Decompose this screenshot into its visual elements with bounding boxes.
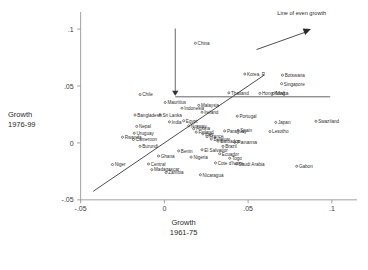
data-point-marker-0 bbox=[194, 42, 196, 44]
data-point-marker-38 bbox=[178, 150, 180, 152]
point-label-burundi: Burundi bbox=[142, 144, 158, 149]
point-label-indonesia: Indonesia bbox=[184, 106, 204, 111]
data-point-marker-35 bbox=[219, 153, 221, 155]
point-label-paraguay: Paraguay bbox=[227, 129, 247, 134]
point-label-singapore: Singapore bbox=[284, 82, 305, 87]
data-point-marker-39 bbox=[229, 157, 231, 159]
data-point-marker-23 bbox=[168, 121, 170, 123]
point-label-portugal: Portugal bbox=[239, 114, 256, 119]
data-point-marker-10 bbox=[201, 111, 203, 113]
data-point-marker-9 bbox=[181, 107, 183, 109]
data-point-marker-36 bbox=[201, 149, 203, 151]
point-label-thailand: Thailand bbox=[231, 91, 249, 96]
point-label-panama: Panama bbox=[237, 139, 257, 145]
even-growth-arrow bbox=[257, 31, 308, 49]
y-axis-title-line2: 1976-99 bbox=[8, 120, 36, 129]
point-label-central: Central bbox=[151, 162, 166, 167]
axes: -.050.05.1-.050.05.1Growth1961-75Growth1… bbox=[8, 12, 357, 237]
point-label-gabon: Gabon bbox=[299, 164, 313, 169]
point-label-rwanda: Rwanda bbox=[125, 135, 142, 140]
point-label-niger: Niger bbox=[115, 162, 126, 167]
line-of-even-growth: Line of even growth bbox=[277, 10, 326, 16]
data-point-marker-24 bbox=[183, 120, 185, 122]
point-label-malta: Malta bbox=[275, 90, 288, 96]
data-point-marker-7 bbox=[164, 101, 166, 103]
point-label-botswana: Botswana bbox=[285, 73, 306, 78]
data-point-marker-48 bbox=[157, 155, 159, 157]
point-label-benin: Benin bbox=[181, 149, 193, 154]
point-label-nicaragua: Nicaragua bbox=[203, 173, 224, 178]
data-point-marker-37 bbox=[190, 156, 192, 158]
point-label-nepal: Nepal bbox=[139, 124, 151, 129]
point-label-japan: Japan bbox=[278, 120, 291, 125]
point-label-india: India bbox=[172, 120, 182, 125]
point-label-nigeria: Nigeria bbox=[193, 155, 208, 160]
x-axis-title-line2: 1961-75 bbox=[170, 228, 198, 237]
point-label-sri-lanka: Sri Lanka bbox=[162, 113, 182, 118]
point-label-ghana: Ghana bbox=[161, 154, 175, 159]
point-label-madagascar: Madagascar bbox=[154, 167, 180, 172]
point-label-korea-r: Korea, R bbox=[247, 72, 266, 77]
data-point-marker-43 bbox=[315, 120, 317, 122]
data-point-marker-42 bbox=[296, 165, 298, 167]
data-point-marker-3 bbox=[281, 83, 283, 85]
x-tick-label-0: -.05 bbox=[75, 205, 87, 212]
y-tick-label-3: .1 bbox=[68, 26, 74, 33]
x-tick-label-3: .1 bbox=[329, 205, 335, 212]
data-point-marker-49 bbox=[111, 163, 113, 165]
y-tick-label-1: 0 bbox=[70, 140, 74, 147]
data-point-marker-4 bbox=[228, 92, 230, 94]
plot-area: -.050.05.1-.050.05.1Growth1961-75Growth1… bbox=[0, 0, 368, 270]
data-point-marker-25 bbox=[188, 125, 190, 127]
scatter-chart: -.050.05.1-.050.05.1Growth1961-75Growth1… bbox=[0, 0, 368, 270]
data-point-marker-40 bbox=[214, 162, 216, 164]
data-point-marker-13 bbox=[134, 114, 136, 116]
y-axis-title-line1: Growth bbox=[8, 110, 32, 119]
even-growth-arrow-head bbox=[303, 29, 311, 35]
point-label-ireland: Ireland bbox=[204, 110, 218, 115]
data-points: ChinaKorea, RBotswanaSingaporeThailandHo… bbox=[111, 41, 339, 177]
x-axis-title-line1: Growth bbox=[172, 218, 196, 227]
mauritius-pointer-head bbox=[172, 91, 178, 96]
data-point-marker-47 bbox=[147, 163, 149, 165]
point-label-lesotho: Lesotho bbox=[272, 129, 289, 134]
data-point-marker-22 bbox=[139, 145, 141, 147]
point-label-mauritius: Mauritius bbox=[167, 100, 186, 105]
annotations: Line of even growth bbox=[257, 10, 327, 49]
data-point-marker-17 bbox=[269, 130, 271, 132]
point-label-chile: Chile bbox=[142, 92, 153, 97]
x-tick-label-2: .05 bbox=[243, 205, 253, 212]
data-point-marker-2 bbox=[281, 74, 283, 76]
data-point-marker-46 bbox=[151, 169, 153, 171]
data-point-marker-32 bbox=[224, 130, 226, 132]
data-point-marker-1 bbox=[244, 73, 246, 75]
point-label-bangladesh: Bangladesh bbox=[137, 113, 162, 118]
y-tick-label-2: .05 bbox=[64, 83, 74, 90]
data-point-marker-21 bbox=[121, 136, 123, 138]
x-tick-label-1: 0 bbox=[162, 205, 166, 212]
data-point-marker-18 bbox=[136, 125, 138, 127]
data-point-marker-5 bbox=[259, 92, 261, 94]
point-label-saudi-arabia: Saudi Arabia bbox=[239, 162, 265, 167]
data-point-marker-14 bbox=[236, 115, 238, 117]
data-point-marker-11 bbox=[139, 93, 141, 95]
data-point-marker-15 bbox=[275, 121, 277, 123]
y-tick-label-0: -.05 bbox=[62, 196, 74, 203]
point-label-swaziland: Swaziland bbox=[318, 119, 339, 124]
point-label-china: China bbox=[198, 41, 210, 46]
data-point-marker-44 bbox=[199, 174, 201, 176]
data-point-marker-19 bbox=[133, 132, 135, 134]
point-label-el-salvador: El Salvador bbox=[204, 148, 228, 153]
